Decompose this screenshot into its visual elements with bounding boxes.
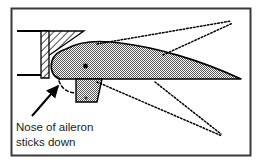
wing-spar-web [41, 31, 49, 78]
caption-line-1: Nose of aileron [16, 121, 93, 133]
caption-line-2: sticks down [16, 136, 75, 148]
hinge-point [83, 64, 88, 69]
figure-container: Nose of aileron sticks down [0, 0, 263, 166]
aileron-diagram: Nose of aileron sticks down [0, 0, 263, 166]
